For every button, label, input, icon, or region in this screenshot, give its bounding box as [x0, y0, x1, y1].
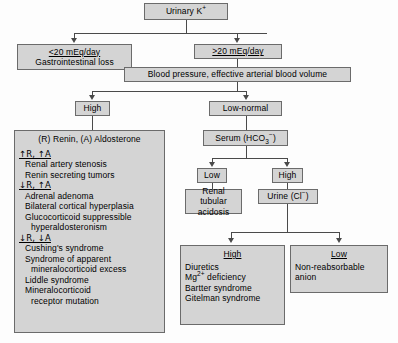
- connector-serum-stem: [246, 146, 247, 158]
- node-renal-tubular-acidosis: Renal tubular acidosis: [185, 189, 242, 214]
- node-bp-low-normal: Low-normal: [209, 101, 282, 116]
- renin-group-3-item-3: Liddle syndrome: [19, 275, 160, 286]
- renin-group-2-item-3: hyperaldosteronism: [19, 222, 160, 233]
- node-renin-aldosterone-panel: (R) Renin, (A) Aldosterone ↑R, ↑A Renal …: [14, 130, 165, 333]
- arrow-to-bp-low-normal: [243, 95, 249, 100]
- connector-urine-split: [231, 232, 339, 233]
- renin-group-3-item-0: Cushing's syndrome: [19, 243, 160, 254]
- renin-group-3-heading: ↓R, ↓A: [19, 233, 160, 244]
- arrow-to-hco3-high: [284, 162, 290, 167]
- node-hco3-low-label: Low: [204, 170, 220, 181]
- node-cl-high-item-3: Gitelman syndrome: [185, 293, 280, 304]
- renin-group-2-heading: ↓R, ↑A: [19, 180, 160, 191]
- connector-low-normal-to-serum: [246, 116, 247, 130]
- node-serum-hco3-label: Serum (HCO3−): [215, 133, 276, 144]
- arrow-to-cl-low: [336, 238, 342, 243]
- node-hco3-high: High: [272, 168, 303, 183]
- node-rta-line2: acidosis: [198, 207, 230, 218]
- node-cl-high-heading: High: [185, 249, 280, 260]
- renin-group-2-item-2: Glucocorticoid suppressible: [19, 212, 160, 223]
- renin-group-3-item-4: Mineralocorticoid: [19, 285, 160, 296]
- node-cl-low-line2: anion: [295, 272, 383, 283]
- node-low-excretion-cause: Gastrointestinal loss: [35, 57, 114, 68]
- flowchart-canvas: Urinary K+ <20 mEq/day Gastrointestinal …: [0, 0, 398, 343]
- node-bp-high-label: High: [84, 103, 102, 114]
- renin-group-1-heading: ↑R, ↑A: [19, 149, 160, 160]
- node-low-excretion-threshold: <20 mEq/day: [49, 47, 100, 58]
- arrow-to-low-excretion: [71, 38, 77, 43]
- node-cl-high: High Diuretics Mg2+ deficiency Bartter s…: [180, 245, 285, 325]
- connector-high-excretion-to-bp: [237, 59, 238, 67]
- node-bp-volume-label: Blood pressure, effective arterial blood…: [148, 69, 327, 80]
- renin-group-1-item-1: Renin secreting tumors: [19, 170, 160, 181]
- connector-root-stem: [186, 20, 187, 33]
- connector-serum-split: [212, 158, 287, 159]
- node-cl-low-heading: Low: [295, 249, 383, 260]
- node-bp-volume: Blood pressure, effective arterial blood…: [124, 67, 351, 82]
- connector-root-split: [74, 33, 267, 34]
- arrow-to-cl-high: [228, 238, 234, 243]
- node-serum-hco3: Serum (HCO3−): [203, 130, 288, 146]
- node-hco3-high-label: High: [279, 170, 297, 181]
- connector-bp-high-to-panel: [92, 116, 93, 130]
- node-cl-low-line1: Non-reabsorbable: [295, 262, 383, 273]
- node-hco3-low: Low: [197, 168, 227, 183]
- node-high-excretion-label: >20 mEq/day: [212, 46, 263, 57]
- arrow-to-bp-high: [89, 95, 95, 100]
- node-urinary-k-label: Urinary K+: [166, 6, 206, 17]
- connector-bp-stem: [237, 82, 238, 91]
- renin-panel-title: (R) Renin, (A) Aldosterone: [19, 134, 160, 145]
- node-urine-chloride: Urine (Cl−): [258, 189, 318, 204]
- renin-group-1-item-0: Renal artery stenosis: [19, 159, 160, 170]
- node-bp-high: High: [75, 101, 110, 116]
- node-cl-high-item-1: Mg2+ deficiency: [185, 272, 280, 283]
- arrow-to-hco3-low: [209, 162, 215, 167]
- node-low-excretion: <20 mEq/day Gastrointestinal loss: [17, 44, 132, 70]
- node-high-excretion: >20 mEq/day: [194, 44, 282, 59]
- node-cl-low: Low Non-reabsorbable anion: [290, 245, 388, 293]
- node-urinary-k: Urinary K+: [144, 3, 228, 20]
- connector-bp-split: [92, 91, 246, 92]
- node-urine-chloride-label: Urine (Cl−): [267, 191, 308, 202]
- renin-group-3-item-5: receptor mutation: [19, 296, 160, 307]
- renin-group-3-item-2: mineralocorticoid excess: [19, 264, 160, 275]
- node-bp-low-normal-label: Low-normal: [223, 103, 268, 114]
- connector-urine-stem: [287, 204, 288, 232]
- renin-group-2-item-1: Bilateral cortical hyperplasia: [19, 201, 160, 212]
- arrow-to-high-excretion: [234, 38, 240, 43]
- node-rta-line1: Renal tubular: [189, 186, 238, 207]
- renin-group-3-item-1: Syndrome of apparent: [19, 254, 160, 265]
- node-cl-high-item-2: Bartter syndrome: [185, 283, 280, 294]
- renin-group-2-item-0: Adrenal adenoma: [19, 191, 160, 202]
